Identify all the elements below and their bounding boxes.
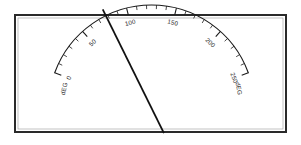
major-tick (175, 8, 177, 15)
gauge-panel: 050100150200250 dEGdEG (0, 0, 301, 145)
minor-tick (166, 6, 167, 10)
gauge-canvas: 050100150200250 dEGdEG (0, 0, 301, 145)
minor-tick (136, 6, 137, 10)
major-tick (127, 8, 129, 15)
